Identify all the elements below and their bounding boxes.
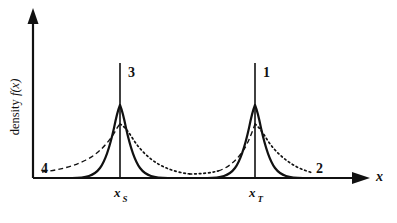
tick-label-xt-symbol: x [249,185,256,200]
tick-label-xt: xT [249,186,261,199]
tick-label-xs-subscript: S [123,195,128,204]
y-axis-label-argument: (x) [8,79,22,93]
curve-label-2: 2 [316,162,323,176]
curve-2-valley-dotted-segment [190,171,218,174]
y-axis-label: density f(x) [2,54,28,160]
curve-4 [42,124,190,174]
tick-label-xt-subscript: T [258,195,264,204]
curve-label-3: 3 [128,66,135,80]
y-axis-label-prefix: density [8,96,22,135]
y-axis-label-function: f [8,93,22,96]
curve-2-dotted-segment [255,124,313,173]
plot-canvas [0,0,397,223]
up-arrow-icon [28,8,39,24]
curve-2 [190,124,313,174]
axis-group [28,8,371,184]
tick-label-xs: xS [114,186,126,199]
right-arrow-icon [352,172,370,184]
curve-label-4: 4 [41,162,48,176]
density-figure: density f(x) x xS xT 3 1 4 2 [0,0,397,223]
tick-label-xs-symbol: x [114,185,121,200]
x-axis-label: x [376,170,383,184]
curve-label-1: 1 [263,66,270,80]
